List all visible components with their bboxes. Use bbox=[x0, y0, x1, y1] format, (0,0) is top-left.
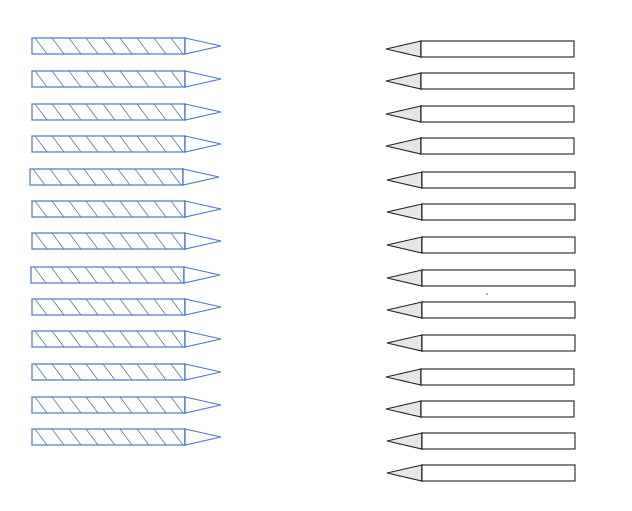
plain-pencil bbox=[387, 302, 575, 318]
hatched-pencil bbox=[32, 429, 221, 445]
plain-pencil bbox=[387, 172, 575, 188]
hatched-pencil bbox=[32, 364, 221, 380]
plain-pencil bbox=[386, 106, 574, 122]
left-pencil-group-blue-hatched bbox=[30, 38, 221, 445]
stray-dot bbox=[486, 293, 488, 295]
plain-pencil bbox=[387, 270, 575, 286]
hatched-pencil bbox=[32, 233, 221, 249]
plain-pencil bbox=[387, 335, 575, 351]
hatched-pencil bbox=[30, 169, 219, 185]
plain-pencil bbox=[387, 204, 575, 220]
hatched-pencil bbox=[32, 397, 221, 413]
hatched-pencil bbox=[32, 201, 221, 217]
hatched-pencil bbox=[32, 136, 221, 152]
plain-pencil bbox=[386, 369, 574, 385]
hatched-pencil bbox=[31, 267, 220, 283]
plain-pencil bbox=[386, 41, 574, 57]
hatched-pencil bbox=[32, 38, 221, 54]
right-pencil-group-black-plain bbox=[386, 41, 575, 481]
hatched-pencil bbox=[32, 104, 221, 120]
hatched-pencil bbox=[32, 71, 221, 87]
plain-pencil bbox=[387, 433, 575, 449]
hatched-pencil bbox=[32, 331, 221, 347]
plain-pencil bbox=[387, 237, 575, 253]
plain-pencil bbox=[386, 401, 574, 417]
pencil-comparison-diagram bbox=[0, 0, 632, 511]
hatched-pencil bbox=[32, 299, 221, 315]
plain-pencil bbox=[386, 73, 574, 89]
plain-pencil bbox=[387, 465, 575, 481]
plain-pencil bbox=[386, 138, 574, 154]
